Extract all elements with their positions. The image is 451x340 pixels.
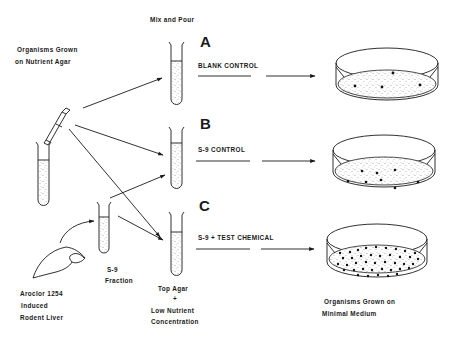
- condition-a-letter: A: [200, 33, 211, 50]
- pipette-icon: [44, 108, 70, 145]
- top-agar-label-1: Top Agar: [158, 285, 188, 293]
- result-label-1: Organisms Grown on: [324, 298, 395, 306]
- organisms-grown-label-1: Organisms Grown: [17, 46, 78, 54]
- petri-dish-b-icon: [333, 135, 435, 189]
- liver-icon: [33, 247, 85, 278]
- aroclor-label-2: Induced: [21, 302, 48, 309]
- petri-dish-a-icon: [336, 48, 438, 101]
- aroclor-label-3: Rodent Liver: [20, 314, 63, 321]
- arrow-s9-to-tube-b: [110, 175, 165, 198]
- condition-b-letter: B: [200, 115, 211, 132]
- condition-a-label: BLANK CONTROL: [198, 62, 258, 69]
- ames-test-diagram: Mix and Pour Organisms Grown on Nutrient…: [0, 0, 451, 340]
- arrow-to-tube-a: [83, 78, 162, 108]
- culture-tube-icon: [36, 142, 51, 206]
- tube-a-icon: [169, 42, 184, 105]
- condition-b-label: S-9 CONTROL: [198, 146, 245, 153]
- condition-c-letter: C: [199, 197, 210, 214]
- s9-label-1: S-9: [107, 266, 118, 273]
- aroclor-label-1: Aroclor 1254: [20, 290, 63, 297]
- mix-and-pour-label: Mix and Pour: [150, 16, 194, 23]
- tube-b-icon: [169, 127, 184, 189]
- arrow-to-tube-b: [75, 125, 163, 155]
- result-label-2: Minimal Medium: [322, 310, 377, 317]
- petri-dish-c-icon: [327, 224, 427, 277]
- organisms-grown-label-2: on Nutrient Agar: [15, 58, 71, 66]
- tube-c-icon: [169, 212, 184, 276]
- s9-tube-icon: [97, 202, 111, 253]
- s9-label-2: Fraction: [105, 277, 133, 284]
- top-agar-label-3: Concentration: [151, 318, 199, 325]
- top-agar-plus: +: [173, 295, 177, 302]
- top-agar-label-2: Low Nutrient: [151, 307, 195, 314]
- arrow-liver-to-s9: [60, 221, 94, 243]
- arrow-s9-to-tube-c: [118, 216, 163, 240]
- condition-c-label: S-9 + TEST CHEMICAL: [198, 234, 274, 241]
